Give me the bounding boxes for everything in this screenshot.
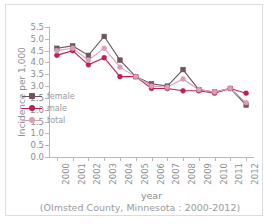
x-axis-tick-label: 2001 — [77, 163, 87, 185]
legend-label: total — [47, 116, 65, 125]
data-point-male-2003 — [102, 55, 107, 60]
x-axis-tick-label: 2005 — [140, 163, 150, 185]
legend-item-female[interactable]: female — [22, 91, 75, 101]
data-point-male-2008 — [181, 88, 186, 93]
x-axis-tick-label: 2004 — [124, 163, 134, 185]
x-axis-tick-label: 2006 — [156, 163, 166, 185]
y-axis-tick-label: 5.0 — [30, 34, 44, 44]
x-axis-tick — [215, 157, 216, 161]
x-axis-title: year — [49, 190, 254, 201]
data-point-female-2008 — [181, 67, 186, 72]
x-axis-tick-label: 2007 — [171, 163, 181, 185]
series-line-total — [57, 48, 246, 102]
data-point-total-2005 — [133, 74, 138, 79]
y-axis-tick-label: 0.0 — [30, 152, 44, 162]
x-axis-tick — [104, 157, 105, 161]
data-point-male-2002 — [86, 62, 91, 67]
data-point-total-2000 — [54, 48, 59, 53]
y-axis-tick-label: 3.0 — [30, 81, 44, 91]
data-point-total-2001 — [70, 46, 75, 51]
x-axis-tick — [73, 157, 74, 161]
legend-marker-icon — [29, 117, 35, 123]
legend-marker-icon — [29, 93, 35, 99]
x-axis-tick-label: 2002 — [92, 163, 102, 185]
data-point-total-2011 — [228, 86, 233, 91]
data-point-female-2004 — [118, 58, 123, 63]
x-axis-tick-label: 2010 — [219, 163, 229, 185]
legend-item-male[interactable]: male — [22, 103, 75, 113]
data-point-male-2000 — [54, 53, 59, 58]
x-axis-tick-label: 2009 — [203, 163, 213, 185]
x-axis-tick — [120, 157, 121, 161]
data-point-total-2007 — [165, 85, 170, 90]
legend-swatch-male — [22, 103, 42, 113]
legend-label: female — [47, 92, 75, 101]
x-axis-tick — [246, 157, 247, 161]
series-layer — [49, 27, 254, 157]
x-axis-tick-label: 2000 — [61, 163, 71, 185]
data-point-male-2004 — [118, 74, 123, 79]
series-line-female — [57, 36, 246, 105]
y-axis-tick-label: 0.5 — [30, 140, 44, 150]
x-axis-tick-label: 2011 — [234, 163, 244, 185]
x-axis-tick — [57, 157, 58, 161]
data-point-total-2008 — [181, 77, 186, 82]
x-axis-tick-label: 2012 — [250, 163, 260, 185]
x-axis-tick-label: 2003 — [108, 163, 118, 185]
x-axis-tick — [152, 157, 153, 161]
x-axis-tick — [183, 157, 184, 161]
y-axis-tick — [45, 157, 49, 158]
data-point-female-2003 — [102, 34, 107, 39]
data-point-total-2003 — [102, 46, 107, 51]
y-axis-tick-label: 4.5 — [30, 46, 44, 56]
legend-item-total[interactable]: total — [22, 115, 75, 125]
x-axis-tick-label: 2008 — [187, 163, 197, 185]
plot-area: 5.55.04.54.03.53.02.52.01.51.00.50.0 200… — [49, 27, 254, 157]
legend-marker-icon — [29, 105, 35, 111]
x-axis-tick — [88, 157, 89, 161]
x-axis-tick — [230, 157, 231, 161]
chart-caption: (Olmsted County, Minnesota : 2000-2012) — [14, 202, 266, 213]
x-axis-tick — [167, 157, 168, 161]
data-point-male-2012 — [244, 91, 249, 96]
data-point-total-2006 — [149, 84, 154, 89]
legend-swatch-female — [22, 91, 42, 101]
y-axis-tick-label: 4.0 — [30, 57, 44, 67]
chart-legend: femalemaletotal — [22, 91, 75, 127]
x-axis-tick — [199, 157, 200, 161]
legend-swatch-total — [22, 115, 42, 125]
data-point-total-2010 — [212, 90, 217, 95]
y-axis-tick-label: 5.5 — [30, 22, 44, 32]
data-point-total-2004 — [118, 65, 123, 70]
data-point-total-2009 — [196, 87, 201, 92]
legend-label: male — [47, 104, 67, 113]
data-point-female-2002 — [86, 53, 91, 58]
y-axis-tick-label: 1.0 — [30, 128, 44, 138]
chart-frame: Incidence per 1,000 5.55.04.54.03.53.02.… — [5, 4, 263, 216]
data-point-total-2012 — [244, 100, 249, 105]
y-axis-tick-label: 3.5 — [30, 69, 44, 79]
x-axis-tick — [136, 157, 137, 161]
data-point-total-2002 — [86, 58, 91, 63]
